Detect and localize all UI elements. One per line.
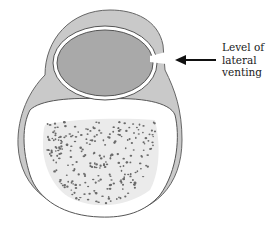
- annotation-label: Level oflateralventing: [222, 41, 264, 79]
- label-line-3: venting: [222, 66, 264, 79]
- arrow-head-icon: [175, 55, 186, 65]
- label-line-1: Level of: [222, 41, 264, 54]
- inner-oval: [57, 30, 153, 96]
- lateral-venting-diagram: [0, 0, 271, 230]
- label-line-2: lateral: [222, 54, 264, 67]
